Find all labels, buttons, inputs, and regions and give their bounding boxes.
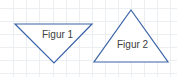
triangle-figure-2 <box>94 10 168 62</box>
diagram-canvas: Figur 1 Figur 2 <box>0 0 177 77</box>
figure-2-label: Figur 2 <box>117 39 149 50</box>
figure-1-label: Figur 1 <box>42 29 74 40</box>
